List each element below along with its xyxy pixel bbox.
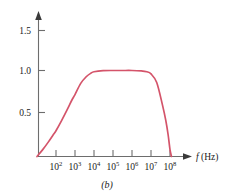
y-tick-marks: [39, 31, 46, 113]
y-axis: [35, 11, 42, 157]
figure-caption: (b): [101, 179, 113, 191]
x-tick-label-1e6: 106: [126, 160, 140, 172]
x-tick-base-1e6: 10: [126, 162, 136, 172]
x-axis-arrow-icon: [183, 153, 192, 160]
x-tick-label-1e2: 102: [50, 160, 63, 172]
x-tick-base-1e5: 10: [107, 162, 117, 172]
x-tick-label-1e4: 104: [88, 160, 102, 172]
x-tick-exp-1e6: 6: [135, 160, 139, 167]
x-tick-exp-1e3: 3: [78, 160, 82, 167]
y-tick-label-0-5: 0.5: [19, 108, 31, 118]
x-tick-exp-1e7: 7: [154, 160, 158, 167]
x-tick-base-1e3: 10: [69, 162, 79, 172]
x-tick-marks: [56, 150, 170, 157]
y-tick-label-1-5: 1.5: [19, 26, 31, 36]
x-tick-exp-1e8: 8: [173, 160, 177, 167]
y-axis-arrow-icon: [35, 11, 42, 20]
y-tick-label-1-0: 1.0: [19, 66, 31, 76]
x-tick-exp-1e5: 5: [116, 160, 120, 167]
x-tick-base-1e7: 10: [145, 162, 155, 172]
x-axis-title-unit: (Hz): [199, 152, 219, 163]
x-tick-label-1e3: 103: [69, 160, 83, 172]
x-tick-exp-1e2: 2: [59, 160, 62, 167]
x-tick-label-1e7: 107: [145, 160, 159, 172]
x-axis-title: f (Hz): [196, 152, 218, 163]
response-curve: [37, 70, 172, 156]
x-tick-base-1e2: 10: [50, 162, 60, 172]
x-tick-base-1e8: 10: [164, 162, 174, 172]
x-tick-exp-1e4: 4: [97, 160, 101, 167]
x-tick-base-1e4: 10: [88, 162, 98, 172]
x-axis: [39, 153, 193, 160]
x-tick-label-1e8: 108: [164, 160, 178, 172]
figure-container: 1.5 1.0 0.5 102 103 104 105 106 107 108 …: [0, 0, 226, 193]
x-tick-label-1e5: 105: [107, 160, 121, 172]
frequency-response-chart: 1.5 1.0 0.5 102 103 104 105 106 107 108 …: [0, 0, 226, 193]
